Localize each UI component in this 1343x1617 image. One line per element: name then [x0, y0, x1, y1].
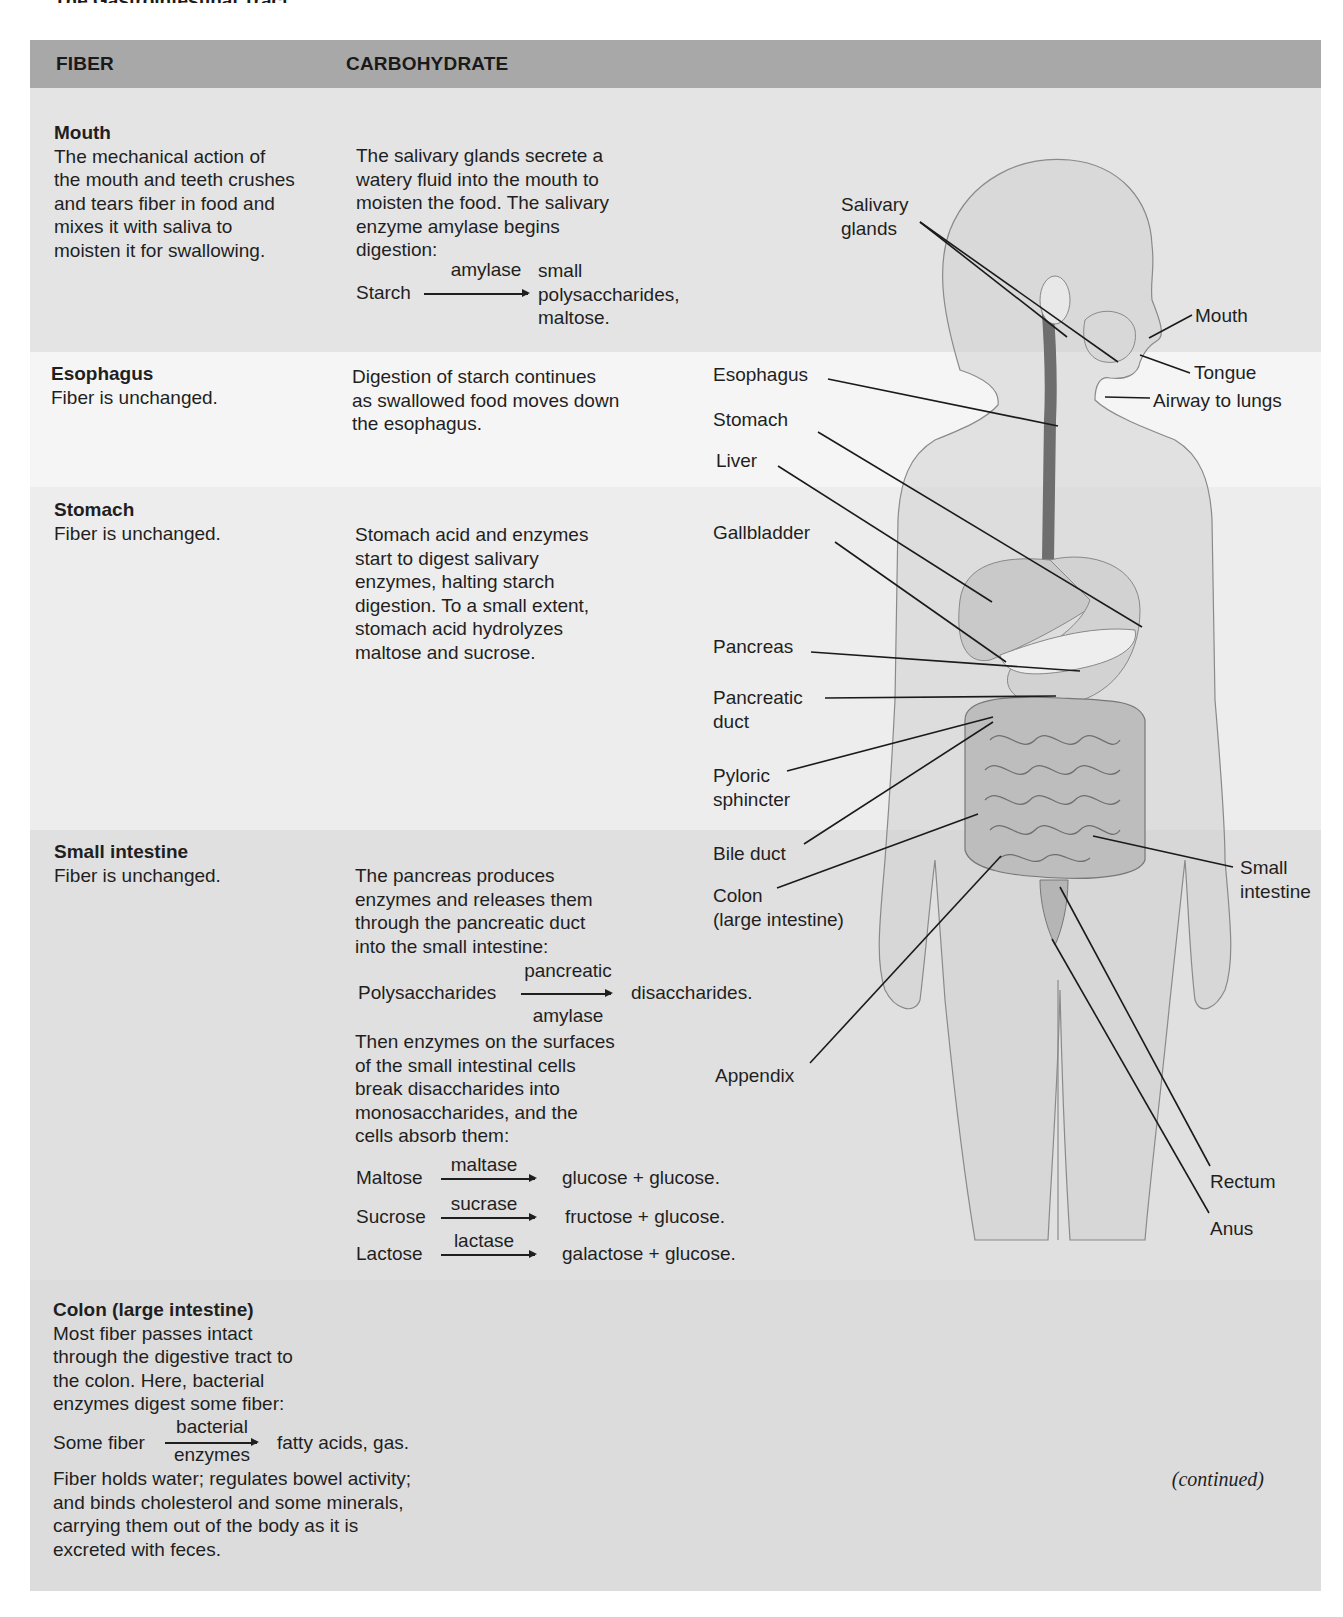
label-salivary-glands: Salivary glands: [841, 193, 909, 240]
label-appendix: Appendix: [715, 1064, 794, 1088]
reaction-polysaccharides: Polysaccharides pancreatic amylase disac…: [358, 965, 798, 1025]
table-header: FIBER CARBOHYDRATE: [30, 40, 1321, 88]
label-colon: Colon (large intestine): [713, 884, 844, 931]
reaction-enzyme: maltase: [444, 1154, 524, 1176]
arrow-icon: [441, 1178, 535, 1180]
reaction-substrate: Polysaccharides: [358, 982, 496, 1004]
reaction-product: fructose + glucose.: [565, 1206, 725, 1228]
text-line: Stomach acid and enzymes: [355, 523, 675, 547]
reaction-enzyme: lactase: [444, 1230, 524, 1252]
continued-note: (continued): [1172, 1468, 1264, 1491]
section-small-intestine-fiber: Small intestine Fiber is unchanged.: [54, 840, 334, 887]
text-line: watery fluid into the mouth to: [356, 168, 676, 192]
section-stomach-carbohydrate: Stomach acid and enzymes start to digest…: [355, 523, 675, 664]
column-header-carbohydrate: CARBOHYDRATE: [346, 53, 509, 75]
text-line: The mechanical action of: [54, 145, 334, 169]
section-heading-colon: Colon (large intestine): [53, 1298, 473, 1322]
label-tongue: Tongue: [1194, 361, 1256, 385]
text-line: Fiber is unchanged.: [54, 864, 334, 888]
text-line: (large intestine): [713, 908, 844, 932]
reaction-product: disaccharides.: [631, 982, 752, 1004]
text-line: as swallowed food moves down: [352, 389, 672, 413]
reaction-starch: Starch amylase small polysaccharides, ma…: [356, 257, 716, 332]
reaction-substrate: Starch: [356, 282, 411, 304]
section-esophagus-carbohydrate: Digestion of starch continues as swallow…: [352, 365, 672, 436]
reaction-substrate: Sucrose: [356, 1206, 426, 1228]
section-colon-fiber: Colon (large intestine) Most fiber passe…: [53, 1298, 473, 1416]
reaction-products: small polysaccharides, maltose.: [538, 259, 680, 330]
text-line: mixes it with saliva to: [54, 215, 334, 239]
text-line: sphincter: [713, 788, 790, 812]
section-small-intestine-carbohydrate: The pancreas produces enzymes and releas…: [355, 864, 675, 958]
text-line: monosaccharides, and the: [355, 1101, 675, 1125]
text-line: Salivary: [841, 193, 909, 217]
arrow-icon: [521, 993, 611, 995]
label-liver: Liver: [716, 449, 757, 473]
text-line: Colon: [713, 884, 844, 908]
text-line: moisten the food. The salivary: [356, 191, 676, 215]
text-line: enzymes, halting starch: [355, 570, 675, 594]
reaction-lactose: Lactose lactase galactose + glucose.: [356, 1239, 796, 1269]
reaction-enzyme: amylase: [518, 1005, 618, 1027]
section-mouth-fiber: Mouth The mechanical action of the mouth…: [54, 121, 334, 262]
reaction-substrate: Some fiber: [53, 1432, 145, 1454]
arrow-icon: [441, 1217, 535, 1219]
label-small-intestine: Small intestine: [1240, 856, 1311, 903]
text-line: maltose and sucrose.: [355, 641, 675, 665]
arrow-icon: [441, 1254, 535, 1256]
text-line: Then enzymes on the surfaces: [355, 1030, 675, 1054]
label-gallbladder: Gallbladder: [713, 521, 810, 545]
text-line: Small: [1240, 856, 1311, 880]
reaction-substrate: Maltose: [356, 1167, 423, 1189]
text-line: the mouth and teeth crushes: [54, 168, 334, 192]
text-line: intestine: [1240, 880, 1311, 904]
text-line: of the small intestinal cells: [355, 1054, 675, 1078]
reaction-product: galactose + glucose.: [562, 1243, 736, 1265]
text-line: Fiber is unchanged.: [54, 522, 334, 546]
label-bile-duct: Bile duct: [713, 842, 786, 866]
reaction-fiber: Some fiber bacterial enzymes fatty acids…: [53, 1420, 473, 1470]
reaction-enzyme: enzymes: [165, 1444, 259, 1466]
arrow-icon: [424, 293, 528, 295]
reaction-enzyme: amylase: [436, 259, 536, 281]
label-pancreatic-duct: Pancreatic duct: [713, 686, 803, 733]
section-heading-small-intestine: Small intestine: [54, 840, 334, 864]
text-line: Most fiber passes intact: [53, 1322, 473, 1346]
label-anus: Anus: [1210, 1217, 1253, 1241]
text-line: The salivary glands secrete a: [356, 144, 676, 168]
section-heading-esophagus: Esophagus: [51, 362, 331, 386]
label-mouth: Mouth: [1195, 304, 1248, 328]
reaction-product: glucose + glucose.: [562, 1167, 720, 1189]
text-line: the esophagus.: [352, 412, 672, 436]
text-line: excreted with feces.: [53, 1538, 493, 1562]
reaction-substrate: Lactose: [356, 1243, 423, 1265]
text-line: through the digestive tract to: [53, 1345, 473, 1369]
text-line: Pyloric: [713, 764, 790, 788]
text-line: enzyme amylase begins: [356, 215, 676, 239]
section-stomach-fiber: Stomach Fiber is unchanged.: [54, 498, 334, 545]
text-line: stomach acid hydrolyzes: [355, 617, 675, 641]
text-line: start to digest salivary: [355, 547, 675, 571]
text-line: carrying them out of the body as it is: [53, 1514, 493, 1538]
label-pyloric-sphincter: Pyloric sphincter: [713, 764, 790, 811]
section-esophagus-fiber: Esophagus Fiber is unchanged.: [51, 362, 331, 409]
section-colon-fiber-2: Fiber holds water; regulates bowel activ…: [53, 1467, 493, 1561]
text-line: polysaccharides,: [538, 283, 680, 307]
label-rectum: Rectum: [1210, 1170, 1275, 1194]
text-line: enzymes and releases them: [355, 888, 675, 912]
reaction-enzyme: pancreatic: [518, 960, 618, 982]
text-line: Digestion of starch continues: [352, 365, 672, 389]
text-line: the colon. Here, bacterial: [53, 1369, 473, 1393]
text-line: duct: [713, 710, 803, 734]
label-esophagus: Esophagus: [713, 363, 808, 387]
section-mouth-carbohydrate: The salivary glands secrete a watery flu…: [356, 144, 676, 262]
label-pancreas: Pancreas: [713, 635, 793, 659]
text-line: enzymes digest some fiber:: [53, 1392, 473, 1416]
section-heading-mouth: Mouth: [54, 121, 334, 145]
text-line: Pancreatic: [713, 686, 803, 710]
text-line: and tears fiber in food and: [54, 192, 334, 216]
reaction-enzyme: sucrase: [444, 1193, 524, 1215]
text-line: Fiber holds water; regulates bowel activ…: [53, 1467, 493, 1491]
text-line: Fiber is unchanged.: [51, 386, 331, 410]
page-title: The Gastrointestinal Tract: [54, 0, 288, 3]
